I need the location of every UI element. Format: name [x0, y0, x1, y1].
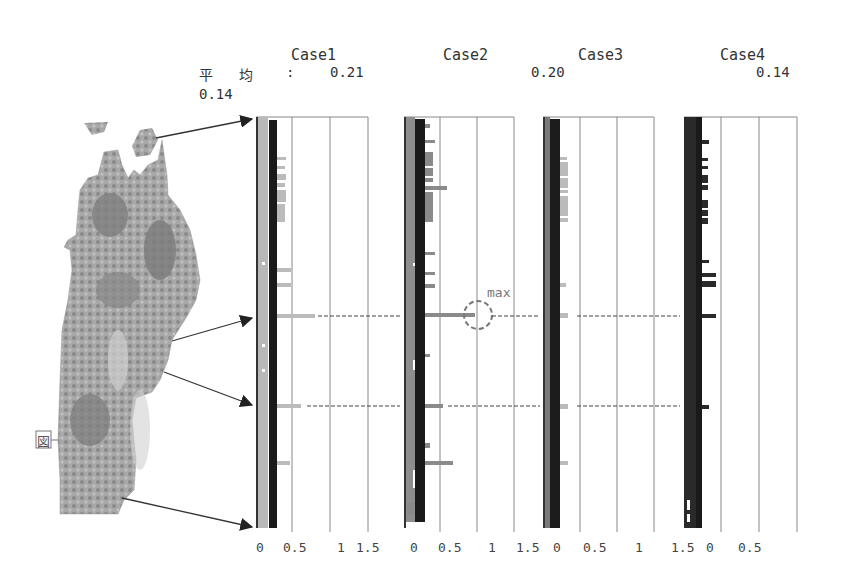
left-average-value: 0.14	[199, 86, 233, 102]
case3-average: 0.20	[531, 64, 565, 80]
case4-bars	[684, 117, 716, 528]
tick-p4-0: 0	[706, 540, 714, 555]
tick-p2-05: 0.5	[438, 540, 461, 555]
tick-p3-15: 1.5	[671, 540, 694, 555]
panel-grids	[256, 117, 797, 532]
tick-p4-05: 0.5	[738, 540, 761, 555]
case2-bars	[404, 117, 492, 528]
tick-p3-0: 0	[553, 540, 561, 555]
case1-title: Case1	[291, 46, 336, 64]
tick-p2-1: 1	[488, 540, 496, 555]
chart-canvas	[0, 0, 841, 582]
tick-p3-05: 0.5	[583, 540, 606, 555]
average-colon: :	[286, 64, 294, 80]
tick-p1-0: 0	[256, 540, 264, 555]
tick-p1-1: 1	[337, 540, 345, 555]
case3-title: Case3	[578, 46, 623, 64]
case4-average: 0.14	[756, 64, 790, 80]
dashed-reference-lines	[307, 316, 680, 406]
max-annotation: max	[487, 285, 510, 300]
tick-p1-15: 1.5	[356, 540, 379, 555]
case3-bars	[543, 117, 568, 528]
case2-title: Case2	[443, 46, 488, 64]
case4-title: Case4	[720, 46, 765, 64]
tick-p1-05: 0.5	[283, 540, 306, 555]
tick-p2-15: 1.5	[516, 540, 539, 555]
case1-average: 0.21	[330, 64, 364, 80]
fig-label: 図	[37, 431, 50, 450]
tick-p3-1: 1	[635, 540, 643, 555]
average-label: 平 均	[199, 64, 259, 84]
tick-p2-0: 0	[410, 540, 418, 555]
case1-bars	[256, 117, 315, 528]
map-landmass	[58, 122, 200, 514]
